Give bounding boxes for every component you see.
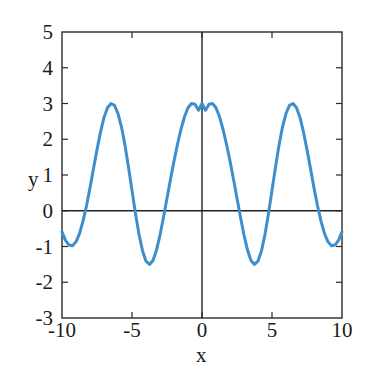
chart-figure: -3-2-1012345 -10-50510 y x: [0, 0, 367, 379]
x-tick-label: -5: [110, 320, 154, 341]
x-tick-label: 0: [180, 320, 224, 341]
y-tick-label: 3: [23, 94, 53, 115]
y-tick-label: 2: [23, 129, 53, 150]
x-tick-label: -10: [40, 320, 84, 341]
y-tick-label: 0: [23, 201, 53, 222]
x-axis-title: x: [196, 345, 207, 366]
y-tick-label: 4: [23, 58, 53, 79]
y-tick-label: -1: [23, 237, 53, 258]
y-tick-label: -2: [23, 272, 53, 293]
x-tick-label: 10: [320, 320, 364, 341]
y-tick-label: 5: [23, 22, 53, 43]
y-axis-title: y: [28, 169, 39, 190]
x-tick-label: 5: [250, 320, 294, 341]
zero-axis-lines: [62, 32, 342, 318]
